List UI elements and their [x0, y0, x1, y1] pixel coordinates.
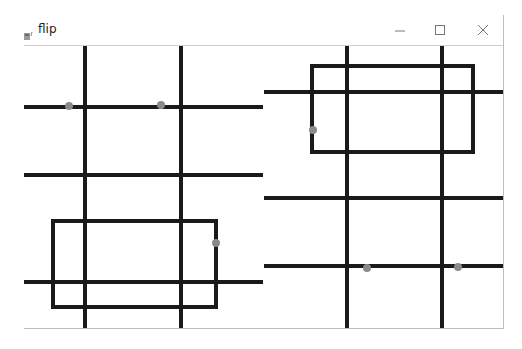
rectangle	[312, 66, 473, 152]
right-panel	[264, 46, 503, 328]
maximize-button[interactable]	[425, 18, 455, 42]
point-marker[interactable]	[363, 264, 371, 272]
point-marker[interactable]	[212, 239, 220, 247]
app-icon	[24, 26, 34, 36]
point-marker[interactable]	[309, 126, 317, 134]
point-marker[interactable]	[454, 263, 462, 271]
left-panel	[24, 46, 263, 328]
minimize-button[interactable]	[385, 18, 415, 42]
window-title: flip	[38, 22, 57, 36]
maximize-icon	[434, 24, 446, 36]
point-marker[interactable]	[157, 101, 165, 109]
rectangle	[53, 221, 216, 307]
point-marker[interactable]	[65, 102, 73, 110]
canvas-border-bottom	[24, 328, 504, 329]
drawing-canvas[interactable]	[24, 45, 504, 329]
app-window: flip	[0, 0, 522, 349]
close-icon	[477, 24, 489, 36]
close-button[interactable]	[468, 18, 498, 42]
title-bar[interactable]: flip	[0, 0, 522, 45]
minimize-icon	[394, 24, 406, 36]
canvas-svg	[24, 45, 504, 329]
